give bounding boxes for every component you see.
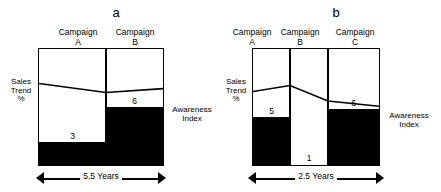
- panel-b-duration-axis: 2.5 Years: [248, 170, 384, 188]
- panel-a-campaign-a-label: Campaign A: [50, 28, 106, 47]
- panel-b-campaign-a-label: Campaign A: [225, 28, 279, 47]
- panel-b-sales-trend-axis-label: Sales Trend %: [220, 78, 252, 104]
- panel-a-awareness-index-label: Awareness Index: [166, 106, 218, 123]
- panel-b-campaign-b-label: Campaign B: [273, 28, 327, 47]
- campaign-key: A: [225, 38, 279, 48]
- panel-b-letter: b: [316, 6, 356, 19]
- campaign-key: C: [328, 38, 382, 48]
- panel-b-plot-area: 5 1 6: [252, 48, 380, 166]
- panel-a-sales-trend-axis-label: Sales Trend %: [4, 78, 38, 104]
- chart-panel-b: b Campaign A Campaign B Campaign C Sales…: [220, 0, 441, 192]
- awareness-index-line-2: Index: [381, 121, 437, 130]
- campaign-key: B: [273, 38, 327, 48]
- panel-a-plot-area: 3 6: [38, 48, 164, 166]
- campaign-key: B: [107, 38, 163, 48]
- panel-a-duration-label: 5.5 Years: [80, 171, 121, 181]
- panel-a-duration-label-wrap: 5.5 Years: [36, 171, 166, 182]
- sales-trend-line-3: %: [220, 95, 252, 104]
- awareness-index-line-2: Index: [166, 115, 218, 124]
- panel-a-letter: a: [96, 6, 136, 19]
- panel-a-sales-trend-line: [39, 49, 164, 166]
- panel-a-duration-axis: 5.5 Years: [36, 170, 166, 188]
- panel-b-duration-label: 2.5 Years: [295, 171, 336, 181]
- sales-trend-line-3: %: [4, 95, 38, 104]
- panel-b-campaign-c-label: Campaign C: [328, 28, 382, 47]
- campaign-key: A: [50, 38, 106, 48]
- panel-b-sales-trend-line: [253, 49, 380, 166]
- panel-b-awareness-index-label: Awareness Index: [381, 112, 437, 129]
- panel-a-campaign-b-label: Campaign B: [107, 28, 163, 47]
- chart-panel-a: a Campaign A Campaign B Sales Trend % Aw…: [0, 0, 220, 192]
- panel-b-duration-label-wrap: 2.5 Years: [248, 171, 384, 182]
